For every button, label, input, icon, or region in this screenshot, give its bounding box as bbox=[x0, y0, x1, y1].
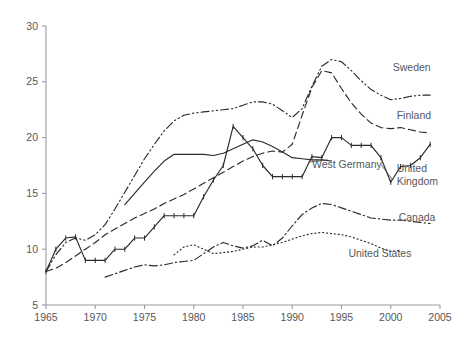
series-label-finland: Finland bbox=[397, 109, 432, 121]
y-tick-label: 20 bbox=[26, 131, 38, 143]
y-tick-label: 10 bbox=[26, 243, 38, 255]
line-chart: 5101520253019651970197519801985199019952… bbox=[0, 0, 457, 340]
chart-canvas: 5101520253019651970197519801985199019952… bbox=[0, 0, 457, 340]
x-tick-label: 1995 bbox=[330, 311, 354, 323]
x-tick-label: 2005 bbox=[428, 311, 452, 323]
x-tick-label: 1975 bbox=[133, 311, 157, 323]
y-tick-label: 30 bbox=[26, 20, 38, 32]
y-tick-label: 25 bbox=[26, 75, 38, 87]
x-tick-label: 1965 bbox=[34, 311, 58, 323]
x-tick-label: 1985 bbox=[231, 311, 255, 323]
series-line-canada bbox=[105, 203, 430, 277]
united-kingdom-leader bbox=[381, 164, 393, 180]
y-tick-label: 5 bbox=[32, 299, 38, 311]
x-tick-label: 1980 bbox=[182, 311, 206, 323]
series-line-west-germany bbox=[125, 140, 332, 205]
series-label-united-kingdom: Kingdom bbox=[397, 175, 439, 187]
series-label-united-kingdom: United bbox=[397, 162, 428, 174]
x-tick-label: 1970 bbox=[84, 311, 108, 323]
axes: 5101520253019651970197519801985199019952… bbox=[26, 20, 452, 323]
series-label-sweden: Sweden bbox=[393, 61, 431, 73]
series-line-finland bbox=[46, 71, 430, 272]
x-tick-label: 1990 bbox=[281, 311, 305, 323]
series-label-west-germany: West Germany bbox=[312, 158, 383, 170]
series-label-canada: Canada bbox=[399, 211, 436, 223]
y-tick-label: 15 bbox=[26, 187, 38, 199]
x-tick-label: 2000 bbox=[379, 311, 403, 323]
series-labels: SwedenFinlandWest GermanyUnitedKingdomCa… bbox=[312, 61, 438, 258]
series-label-united-states: United States bbox=[348, 247, 411, 259]
